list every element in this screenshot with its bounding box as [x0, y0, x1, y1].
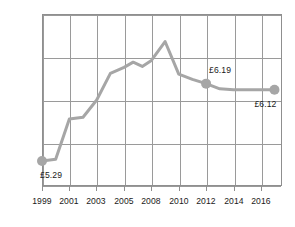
- data-series-layer: [0, 0, 295, 227]
- data-point-marker[interactable]: [201, 79, 211, 89]
- data-point-marker[interactable]: [269, 85, 279, 95]
- data-line: [42, 42, 274, 162]
- data-point-label: £6.12: [254, 99, 276, 109]
- data-point-label: £6.19: [209, 65, 231, 75]
- line-chart: 7.00 6.50 6.00 5.50 5.00 1999 2001 2003 …: [0, 0, 295, 227]
- data-point-marker[interactable]: [37, 156, 47, 166]
- data-point-label: £5.29: [40, 170, 62, 180]
